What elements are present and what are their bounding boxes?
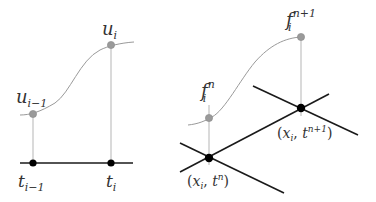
right-panel: fni fn+1i (xi, tn) (xi, tn+1) bbox=[180, 7, 358, 193]
label-u-prev: ui−1 bbox=[16, 86, 47, 110]
label-f-n: fni bbox=[199, 78, 215, 105]
time-node-prev bbox=[29, 159, 36, 166]
diagram-canvas: ui−1 ui ti−1 ti bbox=[0, 0, 376, 202]
left-panel: ui−1 ui ti−1 ti bbox=[16, 18, 134, 194]
label-node-n: (xi, tn) bbox=[187, 172, 229, 191]
label-f-np1: fn+1i bbox=[284, 7, 316, 34]
value-point-f-np1 bbox=[297, 33, 304, 40]
value-point-f-n bbox=[205, 114, 212, 121]
value-point-u-cur bbox=[107, 41, 114, 48]
value-point-u-prev bbox=[29, 110, 36, 117]
label-node-np1: (xi, tn+1) bbox=[277, 124, 332, 143]
grid-node-n bbox=[205, 154, 213, 162]
label-t-prev: ti−1 bbox=[18, 171, 45, 194]
grid-node-np1 bbox=[297, 104, 305, 112]
diagram-svg: ui−1 ui ti−1 ti bbox=[0, 0, 376, 202]
label-t-cur: ti bbox=[106, 171, 116, 194]
label-u-cur: ui bbox=[102, 18, 117, 42]
time-node-cur bbox=[107, 159, 114, 166]
